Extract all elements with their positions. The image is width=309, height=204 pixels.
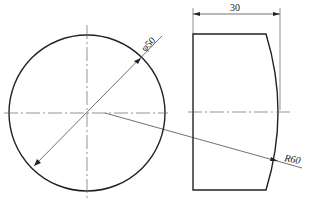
- diameter-label: φ50: [139, 34, 158, 53]
- side-view: 30: [188, 2, 290, 190]
- width-label: 30: [230, 2, 240, 13]
- arrowhead: [193, 12, 200, 16]
- drawing-canvas: φ50 30 R60: [0, 0, 309, 204]
- radius-annotation: R60: [105, 113, 302, 168]
- front-view: φ50: [4, 25, 168, 201]
- diameter-dimension-line: [34, 36, 162, 166]
- arrowhead: [273, 12, 280, 16]
